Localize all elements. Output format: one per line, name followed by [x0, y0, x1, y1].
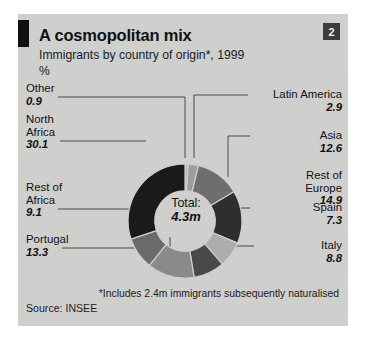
callout-north-africa-label-1: North	[26, 113, 55, 126]
callout-rest-of-africa-label-2: Africa	[26, 194, 62, 207]
callout-latin-america-label: Latin America	[273, 88, 342, 101]
callout-latin-america: Latin America 2.9	[273, 88, 342, 113]
callout-north-africa: North Africa 30.1	[26, 113, 55, 151]
callout-rest-of-europe-label-2: Europe	[305, 182, 342, 195]
callout-latin-america-value: 2.9	[273, 101, 342, 114]
callout-rest-of-africa-label-1: Rest of	[26, 181, 62, 194]
callout-other-value: 0.9	[26, 95, 55, 108]
donut-center-total: Total: 4.3m	[155, 196, 217, 224]
callout-portugal-label: Portugal	[26, 233, 68, 246]
chart-panel: 2 A cosmopolitan mix Immigrants by count…	[18, 14, 348, 326]
callout-spain-value: 7.3	[313, 214, 342, 227]
callout-spain-label: Spain	[313, 201, 342, 214]
callout-spain: Spain 7.3	[313, 201, 342, 226]
callout-asia: Asia 12.6	[320, 129, 342, 154]
leader-line-latin-america	[194, 95, 248, 158]
panel-number-badge: 2	[323, 23, 340, 40]
leader-line-asia	[228, 136, 250, 177]
callout-italy: Italy 8.8	[321, 239, 342, 264]
chart-source: Source: INSEE	[26, 302, 97, 314]
chart-subtitle: Immigrants by country of origin*, 1999	[39, 48, 244, 62]
donut-chart: Total: 4.3m Other 0.9 North Africa 30.1 …	[18, 76, 348, 288]
callout-rest-of-africa: Rest of Africa 9.1	[26, 181, 62, 219]
callout-north-africa-value: 30.1	[26, 138, 55, 151]
callout-asia-label: Asia	[320, 129, 342, 142]
callout-other: Other 0.9	[26, 82, 55, 107]
callout-asia-value: 12.6	[320, 142, 342, 155]
page-title: A cosmopolitan mix	[39, 26, 192, 45]
chart-footnote: *Includes 2.4m immigrants subsequently n…	[99, 288, 339, 299]
callout-portugal-value: 13.3	[26, 246, 68, 259]
callout-rest-of-europe-label-1: Rest of	[305, 169, 342, 182]
callout-north-africa-label-2: Africa	[26, 126, 55, 139]
total-label: Total:	[171, 196, 201, 210]
panel-marker	[18, 20, 29, 47]
callout-italy-label: Italy	[321, 239, 342, 252]
callout-portugal: Portugal 13.3	[26, 233, 68, 258]
leader-line-other	[58, 97, 185, 158]
callout-italy-value: 8.8	[321, 252, 342, 265]
callout-other-label: Other	[26, 82, 55, 95]
callout-rest-of-africa-value: 9.1	[26, 206, 62, 219]
total-value: 4.3m	[155, 210, 217, 224]
